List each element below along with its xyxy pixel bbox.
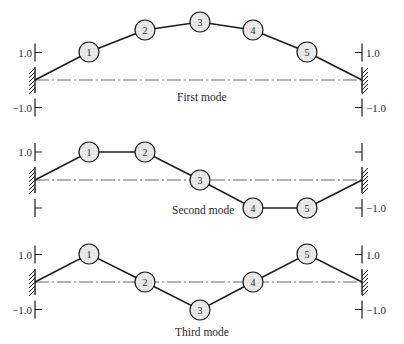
right-lower-tick: −1.0 xyxy=(355,301,386,319)
mode-shapes-diagram: 1.0−1.01.0−1.012345First mode1.0−1.01234… xyxy=(0,0,404,344)
modes-layer: 1.0−1.01.0−1.012345First mode1.0−1.01234… xyxy=(12,12,386,338)
mass-node-1: 1 xyxy=(79,244,99,264)
left-fixed-support-icon xyxy=(29,67,35,94)
mass-node-5: 5 xyxy=(297,42,317,62)
mode-shapes-svg: 1.0−1.01.0−1.012345First mode1.0−1.01234… xyxy=(0,0,404,344)
left-upper-tick: 1.0 xyxy=(18,143,42,161)
mass-node-3: 3 xyxy=(190,170,210,190)
left-fixed-support-icon xyxy=(29,269,35,296)
left-fixed-support-icon xyxy=(29,167,35,194)
left-upper-tick: 1.0 xyxy=(18,246,42,264)
mode-label: Second mode xyxy=(172,204,234,216)
right-fixed-support-icon xyxy=(362,269,368,296)
mode-1-group: 1.0−1.01.0−1.012345First mode xyxy=(12,12,386,117)
mass-node-label: 2 xyxy=(143,147,148,158)
mass-node-2: 2 xyxy=(135,20,155,40)
mass-node-4: 4 xyxy=(243,20,263,40)
mass-node-label: 5 xyxy=(305,203,310,214)
mode-label: Third mode xyxy=(175,326,229,338)
mass-node-2: 2 xyxy=(135,142,155,162)
mass-node-5: 5 xyxy=(297,244,317,264)
axis-tick-label: −1.0 xyxy=(366,304,386,316)
mode-label: First mode xyxy=(177,91,227,103)
mass-node-1: 1 xyxy=(79,142,99,162)
mass-node-label: 4 xyxy=(251,203,256,214)
mass-node-label: 3 xyxy=(198,17,203,28)
mass-node-label: 3 xyxy=(198,175,203,186)
right-upper-tick: 1.0 xyxy=(355,246,380,264)
mass-node-label: 5 xyxy=(305,47,310,58)
mass-node-label: 2 xyxy=(143,277,148,288)
mass-node-label: 1 xyxy=(87,147,92,158)
right-upper-tick xyxy=(355,143,362,161)
right-lower-tick: −1.0 xyxy=(355,199,386,217)
mass-node-label: 3 xyxy=(198,305,203,316)
axis-tick-label: 1.0 xyxy=(18,146,32,158)
mass-node-5: 5 xyxy=(297,198,317,218)
mass-node-label: 4 xyxy=(251,277,256,288)
right-upper-tick: 1.0 xyxy=(355,44,380,62)
mass-node-3: 3 xyxy=(190,12,210,32)
left-lower-tick: −1.0 xyxy=(12,99,42,117)
axis-tick-label: 1.0 xyxy=(18,47,32,59)
axis-tick-label: −1.0 xyxy=(366,102,386,114)
right-lower-tick: −1.0 xyxy=(355,99,386,117)
mass-node-label: 1 xyxy=(87,249,92,260)
right-fixed-support-icon xyxy=(362,67,368,94)
mass-node-1: 1 xyxy=(79,42,99,62)
left-lower-tick: −1.0 xyxy=(12,301,42,319)
mass-node-label: 5 xyxy=(305,249,310,260)
axis-tick-label: 1.0 xyxy=(366,47,380,59)
mass-node-label: 4 xyxy=(251,25,256,36)
mass-node-2: 2 xyxy=(135,272,155,292)
axis-tick-label: 1.0 xyxy=(366,249,380,261)
mass-node-3: 3 xyxy=(190,300,210,320)
axis-tick-label: 1.0 xyxy=(18,249,32,261)
axis-tick-label: −1.0 xyxy=(12,304,32,316)
mass-node-4: 4 xyxy=(243,198,263,218)
axis-tick-label: −1.0 xyxy=(12,102,32,114)
left-upper-tick: 1.0 xyxy=(18,44,42,62)
mass-node-label: 2 xyxy=(143,25,148,36)
mass-node-label: 1 xyxy=(87,47,92,58)
right-fixed-support-icon xyxy=(362,167,368,194)
left-lower-tick xyxy=(35,199,42,217)
mode-2-group: 1.0−1.012345Second mode xyxy=(18,142,386,218)
mass-node-4: 4 xyxy=(243,272,263,292)
mode-3-group: 1.0−1.01.0−1.012345Third mode xyxy=(12,244,386,338)
axis-tick-label: −1.0 xyxy=(366,202,386,214)
